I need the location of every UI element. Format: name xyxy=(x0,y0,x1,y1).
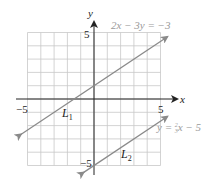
y-axis-label: y xyxy=(88,8,93,19)
y-tick-min: −5 xyxy=(80,158,92,169)
equation-l1: 2x − 3y = −3 xyxy=(111,20,171,31)
x-tick-max: 5 xyxy=(158,104,164,115)
label-l1: L1 xyxy=(62,107,73,122)
coordinate-plane xyxy=(0,0,219,186)
line-l2 xyxy=(83,117,167,173)
l2-sub: 2 xyxy=(128,154,132,163)
eq2-prefix: y = xyxy=(157,121,175,133)
y-tick-max: 5 xyxy=(84,29,90,40)
x-axis-label: x xyxy=(180,94,185,105)
eq2-suffix: x − 5 xyxy=(178,121,201,133)
l1-letter: L xyxy=(62,106,69,120)
l2-letter: L xyxy=(121,147,128,161)
label-l2: L2 xyxy=(121,148,132,163)
l1-sub: 1 xyxy=(69,113,73,122)
equation-l2: y = 23x − 5 xyxy=(157,122,201,134)
x-tick-min: −5 xyxy=(16,104,28,115)
